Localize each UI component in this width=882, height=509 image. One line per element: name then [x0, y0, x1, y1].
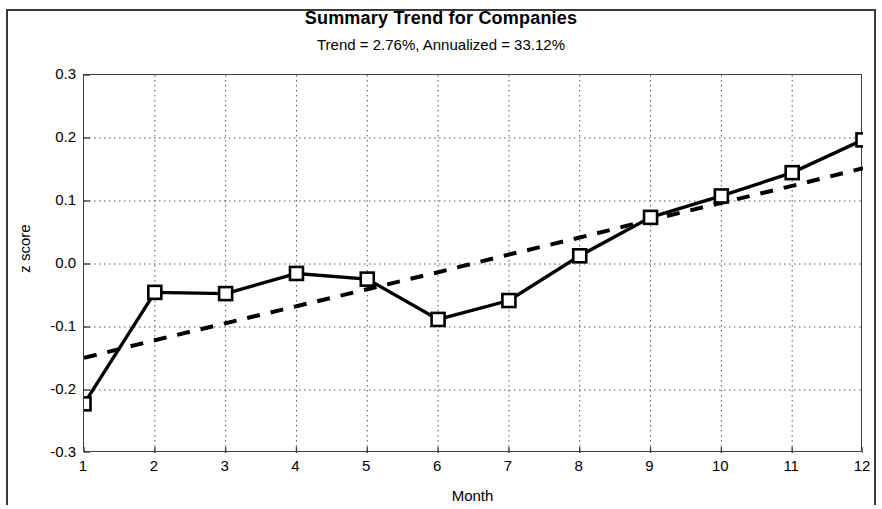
- y-axis-tick-label: -0.3: [6, 444, 76, 459]
- chart-subtitle: Trend = 2.76%, Annualized = 33.12%: [0, 36, 882, 53]
- y-axis-tick-label: 0.0: [6, 255, 76, 270]
- data-point-marker: [290, 267, 303, 280]
- x-axis-tick-label: 3: [205, 458, 245, 474]
- data-point-marker: [84, 397, 91, 410]
- x-axis-tick-label: 9: [630, 458, 670, 474]
- data-point-marker: [715, 189, 728, 202]
- y-axis-tick-label: -0.2: [6, 381, 76, 396]
- data-point-marker: [361, 273, 374, 286]
- data-point-marker: [219, 287, 232, 300]
- x-axis-tick-label: 12: [842, 458, 882, 474]
- trend-line: [84, 168, 863, 358]
- x-axis-tick-label: 11: [771, 458, 811, 474]
- data-line: [84, 140, 863, 404]
- data-point-marker: [857, 133, 864, 146]
- data-point-marker: [432, 313, 445, 326]
- y-axis-tick-label: -0.1: [6, 318, 76, 333]
- gridlines: [84, 75, 863, 453]
- x-axis-tick-label: 4: [275, 458, 315, 474]
- data-markers: [84, 133, 863, 410]
- x-axis-tick-label: 7: [488, 458, 528, 474]
- plot-area: [83, 74, 862, 452]
- x-axis-tick-label: 10: [700, 458, 740, 474]
- y-axis-tick-labels: 0.30.20.10.0-0.1-0.2-0.3: [0, 74, 76, 452]
- data-point-marker: [786, 166, 799, 179]
- x-axis-tick-labels: 123456789101112: [83, 458, 862, 480]
- chart-figure: Summary Trend for Companies Trend = 2.76…: [0, 0, 882, 509]
- x-axis-tick-label: 8: [559, 458, 599, 474]
- x-axis-tick-label: 6: [417, 458, 457, 474]
- plot-svg: [84, 75, 863, 453]
- x-axis-title: Month: [83, 487, 862, 504]
- data-point-marker: [502, 294, 515, 307]
- chart-title: Summary Trend for Companies: [0, 8, 882, 29]
- data-point-marker: [573, 249, 586, 262]
- x-axis-tick-label: 1: [63, 458, 103, 474]
- data-point-marker: [644, 211, 657, 224]
- data-point-marker: [148, 286, 161, 299]
- axis-ticks: [84, 75, 863, 453]
- y-axis-tick-label: 0.1: [6, 192, 76, 207]
- y-axis-tick-label: 0.3: [6, 66, 76, 81]
- x-axis-tick-label: 5: [346, 458, 386, 474]
- x-axis-tick-label: 2: [134, 458, 174, 474]
- y-axis-tick-label: 0.2: [6, 129, 76, 144]
